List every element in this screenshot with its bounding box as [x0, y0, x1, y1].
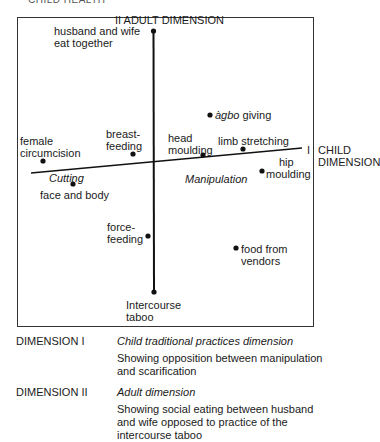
label-line: feeding	[107, 233, 143, 245]
label-line: eat together	[54, 37, 140, 49]
label-intercourse-taboo: Intercourse taboo	[126, 299, 181, 323]
region-label-cutting: Cutting	[49, 172, 84, 184]
label-force-feeding: force- feeding	[107, 221, 143, 245]
legend-key: DIMENSION II	[16, 386, 88, 399]
label-line: breast-	[106, 128, 142, 140]
label-line: female	[20, 135, 81, 147]
legend-description: Showing opposition between manipulation …	[117, 352, 337, 378]
point-force-feeding	[145, 233, 150, 238]
point-intercourse-taboo	[151, 289, 156, 294]
label-line: head	[168, 132, 213, 144]
point-breast-feeding	[130, 151, 135, 156]
horizontal-axis-numeral: I	[307, 144, 310, 156]
legend-dimension-1: DIMENSION I Child traditional practices …	[16, 335, 356, 383]
label-limb-stretching: limb stretching	[218, 135, 289, 147]
point-food-from-vendors	[233, 245, 238, 250]
label-line: moulding	[168, 144, 213, 156]
horizontal-axis-label-line1: CHILD	[318, 144, 380, 156]
label-female-circumcision: female circumcision	[20, 135, 81, 159]
label-line: taboo	[126, 311, 181, 323]
point-female-circumcision	[40, 158, 45, 163]
point-husband-wife	[151, 28, 156, 33]
label-hip-moulding: hip moulding	[266, 156, 311, 180]
point-agbo-giving	[207, 112, 212, 117]
label-food-from-vendors: food from vendors	[241, 243, 287, 267]
label-line: vendors	[241, 255, 287, 267]
point-hip-moulding	[259, 168, 264, 173]
label-line: hip	[266, 156, 311, 168]
label-face-and-body: face and body	[40, 189, 109, 201]
region-label-manipulation: Manipulation	[185, 173, 247, 185]
label-line: Intercourse	[126, 299, 181, 311]
legend-dimension-2: DIMENSION II Adult dimension Showing soc…	[16, 386, 356, 442]
label-head-moulding: head moulding	[168, 132, 213, 156]
legend-key: DIMENSION I	[16, 335, 84, 348]
legend-title: Child traditional practices dimension	[117, 335, 293, 348]
label-breast-feeding: breast- feeding	[106, 128, 142, 152]
point-limb-stretching	[240, 146, 245, 151]
legend-title: Adult dimension	[117, 386, 195, 399]
horizontal-axis-label-line2: DIMENSION	[318, 156, 380, 168]
label-line: force-	[107, 221, 143, 233]
horizontal-axis-label: CHILD DIMENSION	[318, 144, 380, 168]
label-line: husband and wife	[54, 25, 140, 37]
label-agbo-italic: àgbo	[215, 109, 239, 121]
legend-description: Showing social eating between husband an…	[117, 403, 317, 442]
label-line: feeding	[106, 140, 142, 152]
label-line: moulding	[266, 168, 311, 180]
label-husband-wife: husband and wife eat together	[54, 25, 140, 49]
label-agbo-giving: àgbo giving	[215, 109, 271, 121]
label-agbo-rest: giving	[239, 109, 271, 121]
label-line: circumcision	[20, 147, 81, 159]
label-line: food from	[241, 243, 287, 255]
